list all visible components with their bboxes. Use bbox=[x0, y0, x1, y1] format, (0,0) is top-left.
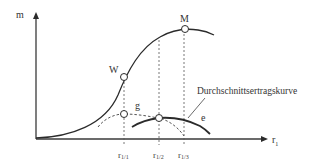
point-w-label: W bbox=[109, 65, 118, 75]
tick-r12-sub: 1/2 bbox=[156, 154, 164, 160]
tick-r11: r1/1 bbox=[118, 151, 129, 162]
y-axis-label: m bbox=[16, 10, 24, 20]
y-axis-arrow-icon bbox=[33, 12, 39, 19]
point-e-label: e bbox=[201, 113, 205, 123]
diagram-canvas bbox=[0, 0, 316, 167]
point-g-marker bbox=[121, 111, 128, 118]
point-w-marker bbox=[121, 74, 128, 81]
point-m-marker bbox=[182, 26, 189, 33]
point-g-label: g bbox=[135, 101, 140, 111]
x-axis-arrow-icon bbox=[261, 136, 268, 142]
average-curve-label: Durchschnittsertragskurve bbox=[197, 86, 297, 96]
average-yield-curve bbox=[132, 118, 210, 134]
point-m-label: M bbox=[180, 14, 189, 24]
x-axis-label: r1 bbox=[272, 135, 278, 149]
tick-r12: r1/2 bbox=[153, 151, 164, 162]
tick-r13-sub: 1/3 bbox=[181, 154, 189, 160]
x-axis-label-sub: 1 bbox=[275, 141, 278, 147]
tick-r11-sub: 1/1 bbox=[121, 154, 129, 160]
tick-r13: r1/3 bbox=[178, 151, 189, 162]
point-e-marker bbox=[156, 115, 163, 122]
